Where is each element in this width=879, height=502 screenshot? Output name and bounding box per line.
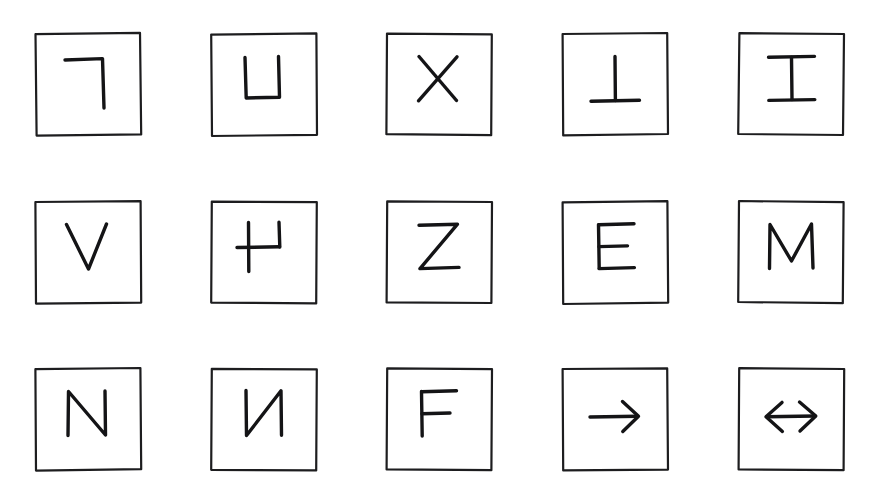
glyph-card-label: Capital letter N mirrored horizontally [208,473,209,474]
glyph-card-rightwards-arrow[interactable]: Arrow pointing right [559,365,671,473]
glyph-mark [419,224,459,268]
grid-cell: Capital letter X [352,0,528,168]
grid-cell: Capital letter E [527,168,703,336]
glyph-card-grid: Letter L rotated 180 degrees: horizontal… [0,0,879,502]
card-frame [211,202,317,304]
grid-cell: Capital letter Z [352,168,528,336]
glyph-mark [68,391,106,436]
glyph-mark-shaft [590,416,637,417]
grid-cell: Capital letter U [176,0,352,168]
glyph-card-letter-v[interactable]: Capital letter V [32,198,144,306]
glyph-card-letter-u[interactable]: Capital letter U [208,30,320,138]
glyph-mark-secondary [591,100,640,101]
grid-cell: Capital letter N [0,336,176,502]
glyph-card-label: Capital letter Z [383,306,384,307]
card-frame [563,201,669,304]
glyph-card-letter-i-serif[interactable]: Capital letter I with top and bottom ser… [735,30,847,138]
grid-cell: Capital letter F [352,336,528,502]
glyph-mark-bottom [599,268,634,269]
glyph-card-rotated-u-with-stem[interactable]: Letter U rotated 90 degrees clockwise: h… [208,198,320,306]
glyph-card-label: Capital letter N [32,473,33,474]
grid-cell: Letter U rotated 90 degrees clockwise: h… [176,168,352,336]
glyph-card-label: Arrow pointing right [559,473,560,474]
glyph-mark-shaft [767,416,815,417]
grid-cell: Capital letter N mirrored horizontally [176,336,352,502]
glyph-mark-middle [599,246,628,247]
glyph-mark [246,391,282,436]
grid-cell: Capital letter I with top and bottom ser… [703,0,879,168]
card-frame [35,201,141,303]
grid-cell: Letter L rotated 180 degrees: horizontal… [0,0,176,168]
grid-cell: Double-headed arrow pointing left and ri… [703,336,879,502]
card-frame [738,201,843,303]
card-frame [211,369,317,471]
glyph-card-label: Capital letter E [559,306,560,307]
glyph-card-up-tack-inverted-t[interactable]: Letter T rotated 180 degrees: vertical s… [559,30,671,138]
glyph-mark [65,59,104,108]
card-frame [387,368,492,470]
grid-cell: Arrow pointing right [527,336,703,502]
glyph-mark-top [599,224,634,225]
glyph-mark-tertiary [279,222,280,247]
glyph-card-label: Capital letter V [32,306,33,307]
card-frame [387,34,492,136]
glyph-mark-top [422,391,457,392]
glyph-mark-secondary [237,247,280,248]
glyph-card-label: Double-headed arrow pointing left and ri… [735,473,736,474]
card-frame [739,368,845,470]
card-frame [387,201,492,303]
glyph-card-label: Capital letter M [735,306,736,307]
glyph-mark [66,224,106,269]
glyph-card-letter-n[interactable]: Capital letter N [32,365,144,473]
glyph-card-label: Capital letter U [208,138,209,139]
glyph-card-label: Letter T rotated 180 degrees: vertical s… [559,138,560,139]
card-frame [211,33,317,136]
glyph-card-label: Capital letter F [383,473,384,474]
glyph-sheet: Letter L rotated 180 degrees: horizontal… [0,0,879,502]
glyph-mark [770,224,814,269]
glyph-card-label: Capital letter I with top and bottom ser… [735,138,736,139]
card-frame [35,368,141,471]
glyph-card-letter-f[interactable]: Capital letter F [383,365,495,473]
glyph-mark-stem [792,58,793,100]
glyph-card-letter-x[interactable]: Capital letter X [383,30,495,138]
glyph-card-letter-z[interactable]: Capital letter Z [383,198,495,306]
glyph-card-letter-m[interactable]: Capital letter M [735,198,847,306]
glyph-card-label: Letter U rotated 90 degrees clockwise: h… [208,306,209,307]
glyph-card-label: Capital letter X [383,138,384,139]
glyph-card-rotated-l-corner[interactable]: Letter L rotated 180 degrees: horizontal… [32,30,144,138]
card-frame [563,368,668,470]
glyph-mark-secondary [769,100,815,101]
grid-cell: Capital letter M [703,168,879,336]
glyph-card-left-right-arrow[interactable]: Double-headed arrow pointing left and ri… [735,365,847,473]
card-frame [35,33,141,136]
grid-cell: Letter T rotated 180 degrees: vertical s… [527,0,703,168]
glyph-mark-middle [422,413,450,414]
glyph-mark [245,57,280,99]
glyph-card-mirrored-letter-n[interactable]: Capital letter N mirrored horizontally [208,365,320,473]
glyph-card-label: Letter L rotated 180 degrees: horizontal… [32,138,33,139]
glyph-card-letter-e[interactable]: Capital letter E [559,198,671,306]
grid-cell: Capital letter V [0,168,176,336]
